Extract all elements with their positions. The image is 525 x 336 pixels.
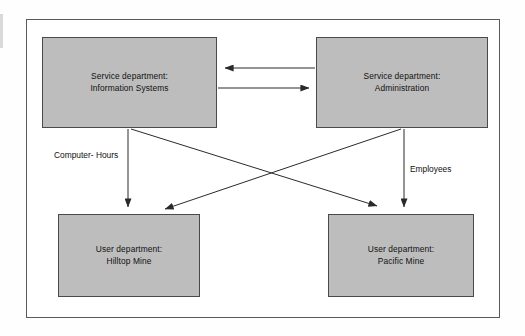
node-hilltop-mine-line1: User department: — [96, 244, 162, 256]
edge-label-computer-hours-line1: Computer- — [54, 150, 94, 160]
node-hilltop-mine[interactable]: User department: Hilltop Mine — [58, 214, 200, 297]
node-administration-line2: Administration — [375, 83, 429, 95]
node-pacific-mine-line2: Pacific Mine — [378, 256, 424, 268]
node-administration-line1: Service department: — [364, 71, 441, 83]
edge-label-computer-hours: Computer- Hours — [54, 150, 108, 162]
node-pacific-mine-line1: User department: — [368, 244, 434, 256]
edge-label-employees: Employees — [410, 164, 451, 176]
node-administration[interactable]: Service department: Administration — [316, 37, 488, 128]
node-information-systems-line1: Service department: — [91, 71, 168, 83]
node-hilltop-mine-line2: Hilltop Mine — [107, 256, 152, 268]
diagram-canvas: Service department: Information Systems … — [0, 0, 525, 336]
page-edge-artifact — [0, 14, 3, 48]
edge-label-computer-hours-line2: Hours — [96, 150, 118, 160]
node-pacific-mine[interactable]: User department: Pacific Mine — [328, 214, 474, 297]
node-information-systems-line2: Information Systems — [90, 83, 168, 95]
node-information-systems[interactable]: Service department: Information Systems — [42, 37, 217, 128]
